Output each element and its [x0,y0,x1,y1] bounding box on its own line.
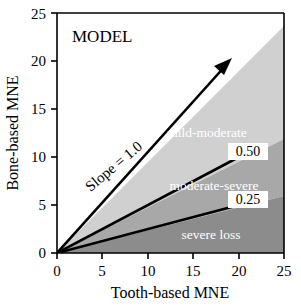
y-axis-ticks [51,13,57,253]
x-tick-label-0: 0 [53,263,61,279]
zone-label-severe-loss: severe loss [182,227,241,242]
slope-label-0-25: 0.25 [236,192,261,207]
plot-title: MODEL [72,27,132,46]
y-axis-title: Bone-based MNE [4,75,21,190]
y-tick-label-0: 0 [39,245,47,261]
x-tick-label-15: 15 [186,263,201,279]
y-tick-label-10: 10 [31,149,46,165]
y-tick-label-20: 20 [31,53,46,69]
x-tick-label-10: 10 [141,263,156,279]
x-axis-ticks [57,253,284,259]
y-tick-label-15: 15 [31,101,46,117]
zone-label-moderate-severe: moderate-severe [169,178,258,193]
x-axis-title: Tooth-based MNE [111,284,229,301]
y-tick-label-25: 25 [31,6,46,22]
x-tick-label-20: 20 [232,263,247,279]
y-tick-label-5: 5 [39,197,47,213]
slope-label-0-50: 0.50 [236,144,261,159]
x-tick-label-5: 5 [98,263,106,279]
zone-label-mild-moderate: mild-moderate [167,125,246,140]
x-tick-label-25: 25 [277,263,292,279]
model-mne-chart: 0 5 10 15 20 25 0 5 10 15 20 25 Tooth-ba… [0,0,301,306]
chart-figure: 0 5 10 15 20 25 0 5 10 15 20 25 Tooth-ba… [0,0,301,306]
